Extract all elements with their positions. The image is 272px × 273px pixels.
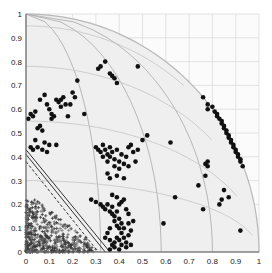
dot-marker [42,140,47,145]
dot-marker [31,114,36,119]
dot-marker [124,207,129,212]
dot-marker [103,147,108,152]
dot-marker [70,90,75,95]
dot-marker [112,240,117,245]
dot-marker [133,159,138,164]
dot-marker [75,78,80,83]
dot-marker [42,93,47,98]
dot-marker [108,238,113,243]
dot-marker [124,240,129,245]
dot-marker [126,233,131,238]
dot-marker [112,219,117,224]
dot-marker [108,176,113,181]
dot-marker [122,162,127,167]
dot-marker [117,226,122,231]
dot-marker [115,174,120,179]
dot-marker [40,147,45,152]
dot-marker [115,195,120,200]
dot-marker [196,183,201,188]
dot-marker [119,243,124,248]
dot-marker [115,209,120,214]
dot-marker [117,238,122,243]
dot-marker [110,205,115,210]
dot-marker [129,143,134,148]
y-tick-label: 0.3 [11,177,23,186]
dot-marker [108,145,113,150]
dot-marker [98,150,103,155]
dot-marker [140,138,145,143]
dot-marker [66,114,71,119]
y-tick-label: 0.6 [11,105,23,114]
x-tick-label: 0.8 [207,257,219,266]
dot-marker [73,95,78,100]
dot-marker [210,105,215,110]
x-tick-label: 0.7 [184,257,196,266]
dot-marker [222,188,227,193]
dot-marker [122,197,127,202]
dot-marker [126,164,131,169]
dot-marker [105,231,110,236]
dot-marker [124,155,129,160]
dot-marker [112,164,117,169]
dot-marker [168,140,173,145]
dot-marker [105,202,110,207]
dot-marker [117,216,122,221]
dot-marker [131,150,136,155]
dot-marker [105,171,110,176]
y-tick-labels: 00.10.20.30.40.50.60.70.80.91 [11,10,23,257]
x-tick-labels: 00.10.20.30.40.50.60.70.80.91 [24,257,262,266]
dot-marker [105,159,110,164]
dot-marker [238,159,243,164]
dot-marker [173,195,178,200]
dot-marker [161,221,166,226]
x-tick-label: 0.3 [90,257,102,266]
dot-marker [47,107,52,112]
dot-marker [61,95,66,100]
dot-marker [35,145,40,150]
dot-marker [49,116,54,121]
y-tick-label: 0.1 [11,224,23,233]
dot-marker [110,193,115,198]
y-tick-label: 1 [18,10,23,19]
dot-marker [122,235,127,240]
dot-marker [101,143,106,148]
y-tick-label: 0.9 [11,34,23,43]
dot-marker [117,247,122,252]
dot-marker [103,235,108,240]
dot-marker [103,207,108,212]
y-tick-label: 0.4 [11,153,23,162]
dot-marker [38,97,43,102]
x-tick-label: 0.6 [160,257,172,266]
dot-marker [124,245,129,250]
dot-marker [129,243,134,248]
y-tick-label: 0.8 [11,58,23,67]
x-tick-label: 0.2 [67,257,79,266]
dot-marker [112,214,117,219]
x-tick-label: 1 [257,257,262,266]
y-tick-label: 0.7 [11,81,23,90]
dot-marker [126,221,131,226]
x-tick-label: 0 [24,257,29,266]
dot-marker [119,231,124,236]
dot-marker [59,105,64,110]
dot-marker [108,247,113,252]
dot-marker [89,197,94,202]
dot-marker [203,174,208,179]
dot-marker [40,128,45,133]
dot-marker [94,200,99,205]
dot-marker [82,112,87,117]
dot-marker [110,150,115,155]
dot-marker [131,219,136,224]
dot-marker [219,197,224,202]
dot-marker [112,157,117,162]
dot-marker [33,109,38,114]
x-tick-label: 0.4 [114,257,126,266]
dot-marker [98,64,103,69]
dot-marker [145,133,150,138]
dot-marker [103,59,108,64]
dot-marker [201,207,206,212]
dot-marker [28,145,33,150]
dot-marker [119,152,124,157]
dot-marker [205,102,210,107]
dot-marker [112,245,117,250]
